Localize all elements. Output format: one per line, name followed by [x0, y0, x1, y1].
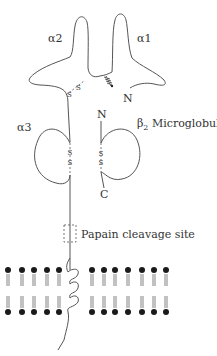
lipid-bilayer	[5, 267, 169, 315]
heavy-chain-n-terminus-label: N	[123, 92, 133, 105]
lipid-head	[89, 309, 95, 315]
alpha2-s2-label: S	[76, 84, 81, 92]
alpha3-s2-label: S	[68, 159, 73, 167]
lipid-head	[31, 267, 37, 273]
lipid-head	[56, 267, 62, 273]
papain-cleavage-label: Papain cleavage site	[81, 228, 195, 241]
lipid-head	[163, 267, 169, 273]
lipid-head	[112, 267, 118, 273]
alpha2-label: α2	[48, 32, 62, 45]
lipid-head	[101, 267, 107, 273]
b2m-c-terminus-label: C	[100, 188, 108, 201]
lipid-head	[31, 309, 37, 315]
mhc-class-i-diagram: S S N α2 α1 α3 S S Papain cleavage site …	[0, 0, 217, 356]
alpha3-label: α3	[17, 121, 31, 134]
b2m-s1-label: S	[99, 150, 104, 158]
b2m-domain-loop	[101, 129, 140, 180]
lipid-head	[125, 309, 131, 315]
lipid-head	[56, 309, 62, 315]
lipid-head	[139, 267, 145, 273]
lipid-head	[5, 267, 11, 273]
lipid-head	[101, 309, 107, 315]
carbohydrate-hatch-icon	[104, 76, 113, 87]
lipid-head	[125, 267, 131, 273]
b2m-label: β2 Microglobulin	[137, 117, 217, 132]
lipid-head	[112, 309, 118, 315]
lipid-head	[19, 309, 25, 315]
lipid-head	[44, 267, 50, 273]
lipid-head	[139, 309, 145, 315]
b2m-c-strand	[101, 172, 104, 188]
lipid-head	[19, 267, 25, 273]
b2m-n-terminus-label: N	[97, 108, 107, 121]
alpha3-domain-loop	[35, 129, 70, 184]
alpha2-s1-label: S	[67, 91, 72, 99]
b2m-s2-label: S	[99, 159, 104, 167]
lipid-head	[151, 309, 157, 315]
alpha1-alpha2-domain-outline	[29, 14, 165, 105]
alpha3-s1-label: S	[68, 149, 73, 157]
alpha1-label: α1	[137, 32, 151, 45]
lipid-head	[151, 267, 157, 273]
lipid-head	[89, 267, 95, 273]
lipid-head	[163, 309, 169, 315]
lipid-head	[5, 309, 11, 315]
lipid-head	[44, 309, 50, 315]
heavy-chain-stalk	[68, 105, 70, 142]
